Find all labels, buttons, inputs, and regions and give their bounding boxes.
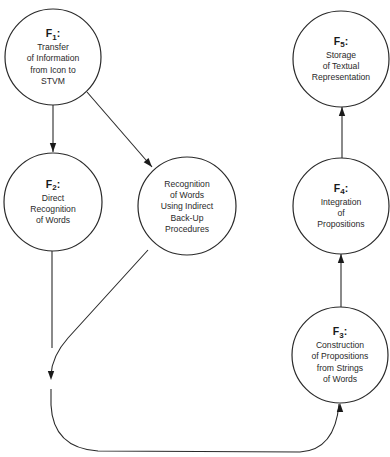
node-text-line: from Icon to	[30, 65, 76, 75]
node-text-line: Integration	[321, 197, 362, 207]
edge-f1-recognition	[87, 92, 152, 167]
node-f1: F1:Transferof Informationfrom Icon toSTV…	[5, 9, 101, 105]
node-f5: F5:Storageof TextualRepresentation	[293, 11, 389, 107]
flow-diagram: F1:Transferof Informationfrom Icon toSTV…	[0, 0, 390, 457]
node-text-line: Propositions	[317, 219, 364, 229]
node-r: Recognitionof WordsUsing IndirectBack-Up…	[138, 157, 236, 255]
node-text-line: Transfer	[37, 42, 69, 52]
node-text-line: Using Indirect	[161, 201, 214, 211]
node-text-line: Storage	[326, 50, 356, 60]
node-f4: F4:IntegrationofPropositions	[293, 158, 389, 254]
node-text-line: Recognition	[164, 179, 210, 189]
edge-recognition-merge	[51, 250, 148, 375]
node-text-line: Representation	[312, 72, 371, 82]
arrowhead-icon	[337, 403, 343, 412]
node-text-line: of Words	[170, 190, 204, 200]
node-text-line: Recognition	[30, 204, 76, 214]
nodes: F1:Transferof Informationfrom Icon toSTV…	[4, 9, 389, 403]
node-text-line: Direct	[42, 193, 65, 203]
node-f3: F3:Constructionof Propositionsfrom Strin…	[292, 307, 388, 403]
node-text-line: of Words	[36, 215, 70, 225]
arrowhead-icon	[50, 143, 56, 152]
node-text-line: from Strings	[317, 363, 363, 373]
node-text-line: Construction	[316, 340, 364, 350]
node-text-line: Back-Up	[171, 213, 204, 223]
edges	[48, 92, 345, 452]
arrowhead-icon	[339, 107, 345, 116]
arrowhead-icon	[48, 371, 54, 380]
node-text-line: of Propositions	[312, 351, 369, 361]
node-f2: F2:DirectRecognitionof Words	[4, 153, 102, 251]
node-text-line: of Information	[27, 53, 80, 63]
node-text-line: of Words	[323, 374, 357, 384]
edge-merge-f3	[51, 389, 339, 452]
arrowhead-icon	[338, 254, 344, 263]
node-text-line: of	[337, 208, 345, 218]
node-text-line: of Textual	[323, 61, 360, 71]
node-text-line: STVM	[41, 76, 65, 86]
node-text-line: Procedures	[165, 224, 209, 234]
